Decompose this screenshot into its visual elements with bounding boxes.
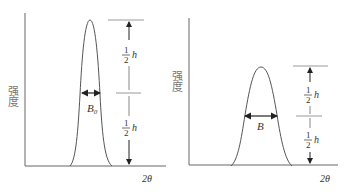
svg-text:2: 2: [124, 55, 129, 65]
svg-text:1: 1: [124, 118, 129, 128]
width-label-b0: B0: [87, 102, 98, 116]
svg-text:h: h: [314, 134, 319, 145]
half-h-top-label: 1 2 h: [304, 85, 319, 105]
y-axis-label: 强度: [6, 85, 20, 108]
panel-broad-peak: 强度 B 1 2 h 1 2 h 2θ: [170, 18, 339, 184]
x-axis-label: 2θ: [142, 173, 152, 184]
panel-narrow-peak: 强度 B0 1 2 h 1 2 h 2θ: [6, 13, 167, 184]
svg-text:2: 2: [306, 140, 311, 150]
diagram-canvas: 强度 B0 1 2 h 1 2 h 2θ 强度 B: [0, 0, 348, 192]
svg-text:2: 2: [124, 128, 129, 138]
half-h-bottom-label: 1 2 h: [304, 130, 319, 150]
svg-text:1: 1: [306, 85, 311, 95]
width-label-b: B: [257, 120, 264, 132]
y-axis-label: 强度: [170, 70, 184, 93]
svg-text:2: 2: [306, 95, 311, 105]
svg-text:h: h: [132, 49, 137, 60]
half-h-top-label: 1 2 h: [122, 45, 137, 65]
half-h-bottom-label: 1 2 h: [122, 118, 137, 138]
x-axis-label: 2θ: [320, 173, 330, 184]
svg-text:1: 1: [124, 45, 129, 55]
svg-text:h: h: [132, 122, 137, 133]
svg-text:h: h: [314, 89, 319, 100]
svg-text:1: 1: [306, 130, 311, 140]
